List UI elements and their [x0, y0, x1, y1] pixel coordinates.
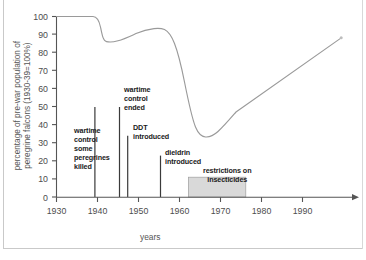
annotation-line: wartime — [124, 85, 150, 94]
annotation-wartime-control-killed: wartime control some peregrines killed — [74, 126, 110, 171]
curve-end-mark — [340, 36, 343, 39]
annotation-line: killed — [74, 162, 110, 171]
x-tick-label-1980: 1980 — [245, 206, 279, 216]
x-axis-arrow — [352, 194, 359, 200]
y-tick-marks — [52, 17, 57, 198]
annotation-line: ended — [124, 103, 150, 112]
x-tick-label-1970: 1970 — [204, 206, 238, 216]
x-tick-label-1960: 1960 — [163, 206, 197, 216]
plot-area — [0, 0, 366, 260]
annotation-line: restrictions on — [203, 166, 251, 175]
x-tick-label-1990: 1990 — [286, 206, 320, 216]
x-tick-label-1950: 1950 — [122, 206, 156, 216]
y-tick-label-0: 0 — [26, 193, 48, 203]
y-axis-title: percentage of pre-war population of pere… — [13, 26, 32, 186]
x-tick-marks — [57, 197, 303, 202]
annotation-line: control — [124, 94, 150, 103]
annotation-restrictions-on-insecticides: restrictions on insecticides — [203, 166, 251, 184]
x-tick-label-1940: 1940 — [81, 206, 115, 216]
annotation-line: introduced — [133, 132, 169, 141]
annotation-wartime-control-ended: wartime control ended — [124, 85, 150, 112]
annotation-line: peregrines — [74, 153, 110, 162]
annotation-line: dieldrin — [165, 148, 201, 157]
annotation-ddt-introduced: DDT introduced — [133, 123, 169, 141]
annotation-line: wartime — [74, 126, 110, 135]
annotation-dieldrin-introduced: dieldrin introduced — [165, 148, 201, 166]
annotation-line: introduced — [165, 157, 201, 166]
y-tick-label-100: 100 — [26, 12, 48, 22]
annotation-line: DDT — [133, 123, 169, 132]
annotation-line: insecticides — [203, 175, 251, 184]
annotation-line: control — [74, 135, 110, 144]
population-curve — [57, 17, 341, 138]
chart-figure: 100 90 80 70 60 50 40 30 20 10 0 1930 19… — [0, 0, 366, 260]
y-axis-title-line2: peregrine falcons (1930-39=100%) — [23, 26, 33, 186]
annotation-line: some — [74, 144, 110, 153]
x-axis-title: years — [140, 232, 160, 242]
x-tick-label-1930: 1930 — [40, 206, 74, 216]
y-axis-title-line1: percentage of pre-war population of — [13, 26, 23, 186]
